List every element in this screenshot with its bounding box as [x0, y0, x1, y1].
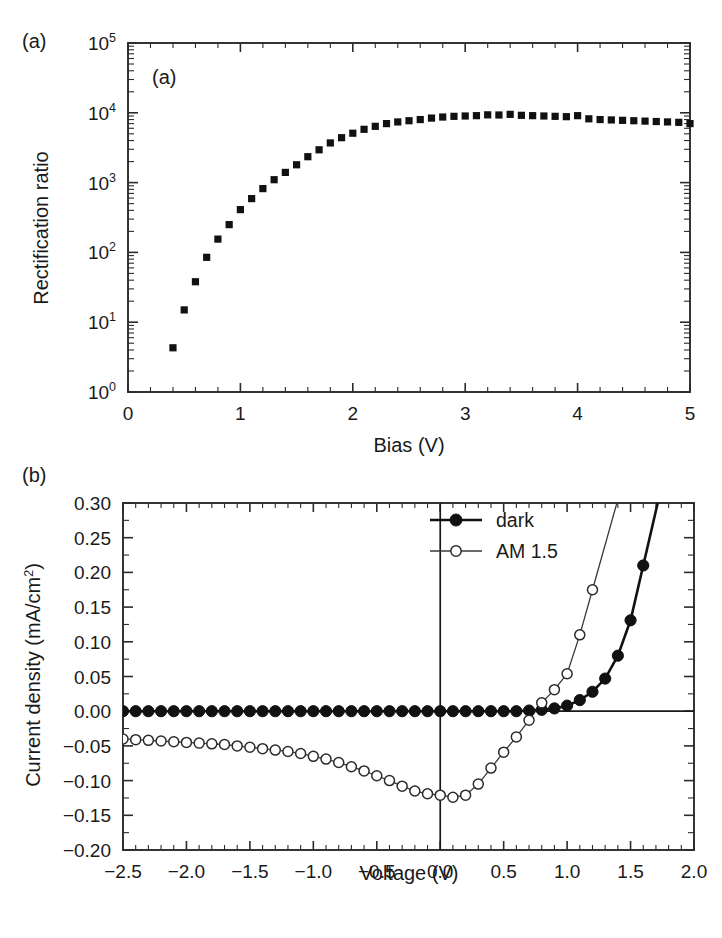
panel-a-marker: [271, 176, 278, 183]
panel-b-marker: [435, 706, 446, 717]
panel-b-x-tick-label: −1.5: [231, 861, 269, 882]
panel-a: 012345100101102103104105 (a) (a) Bias (V…: [0, 0, 722, 470]
panel-a-marker: [405, 117, 412, 124]
panel-b: −2.5−2.0−1.5−1.0−0.50.00.51.01.52.0−0.20…: [0, 460, 722, 938]
panel-b-marker: [384, 706, 395, 717]
panel-a-marker: [439, 113, 446, 120]
panel-b-x-tick-label: 1.5: [617, 861, 643, 882]
panel-b-marker: [499, 747, 509, 757]
panel-a-x-axis-title: Bias (V): [373, 434, 444, 456]
panel-b-marker: [537, 698, 547, 708]
panel-a-marker: [383, 120, 390, 127]
panel-b-marker: [358, 706, 369, 717]
panel-b-marker: [258, 744, 268, 754]
legend-marker-dark: [450, 514, 462, 526]
panel-b-marker: [295, 706, 306, 717]
panel-a-marker: [529, 112, 536, 119]
panel-a-marker: [315, 146, 322, 153]
panel-b-x-tick-label: −2.0: [168, 861, 206, 882]
panel-a-marker: [349, 130, 356, 137]
panel-b-markers-am-1-5: [118, 585, 597, 803]
panel-a-frame: [128, 43, 690, 392]
panel-b-marker: [296, 749, 306, 759]
panel-a-marker: [293, 161, 300, 168]
panel-b-marker: [220, 740, 230, 750]
panel-b-marker: [194, 738, 204, 748]
panel-b-marker: [498, 706, 509, 717]
panel-b-x-tick-label: 1.0: [554, 861, 580, 882]
panel-b-marker: [473, 779, 483, 789]
panel-a-marker: [596, 116, 603, 123]
panel-a-marker: [507, 111, 514, 118]
panel-b-x-axis-title: Voltage (V): [360, 862, 459, 884]
panel-b-marker: [359, 766, 369, 776]
panel-b-y-tick-label: 0.05: [74, 667, 111, 688]
panel-a-y-tick-label: 101: [88, 310, 116, 333]
panel-b-marker: [460, 706, 471, 717]
panel-b-marker: [131, 735, 141, 745]
panel-b-marker: [461, 790, 471, 800]
panel-b-marker: [600, 673, 611, 684]
panel-b-marker: [638, 560, 649, 571]
panel-b-marker: [587, 585, 597, 595]
panel-b-marker: [423, 789, 433, 799]
panel-b-marker: [219, 706, 230, 717]
panel-b-marker: [473, 706, 484, 717]
panel-a-marker: [462, 112, 469, 119]
panel-b-y-tick-label: 0.10: [74, 632, 111, 653]
panel-b-marker: [511, 732, 521, 742]
panel-b-y-tick-label: −0.15: [63, 805, 111, 826]
panel-a-marker: [360, 126, 367, 133]
panel-b-marker: [587, 686, 598, 697]
panel-a-marker: [473, 112, 480, 119]
panel-a-marker: [540, 112, 547, 119]
panel-a-marker: [394, 118, 401, 125]
panel-b-marker: [346, 706, 357, 717]
panel-b-marker: [523, 705, 534, 716]
panel-a-marker: [585, 115, 592, 122]
panel-a-marker: [552, 113, 559, 120]
panel-b-marker: [283, 746, 293, 756]
panel-b-marker: [245, 742, 255, 752]
panel-b-marker: [549, 703, 560, 714]
panel-a-marker: [518, 112, 525, 119]
panel-b-marker: [371, 706, 382, 717]
panel-b-plot: −2.5−2.0−1.5−1.0−0.50.00.51.01.52.0−0.20…: [0, 460, 722, 938]
panel-b-marker: [270, 706, 281, 717]
panel-b-line: [123, 447, 671, 711]
panel-b-marker: [486, 763, 496, 773]
panel-b-y-tick-label: 0.30: [74, 493, 111, 514]
panel-b-marker: [574, 694, 585, 705]
panel-a-marker: [484, 111, 491, 118]
panel-a-x-tick-label: 2: [348, 403, 359, 424]
panel-a-marker: [304, 153, 311, 160]
panel-b-marker: [232, 741, 242, 751]
legend-label-am-1-5: AM 1.5: [496, 540, 558, 562]
panel-a-marker: [417, 116, 424, 123]
panel-b-marker: [117, 706, 128, 717]
panel-a-letter: (a): [22, 30, 46, 52]
panel-b-series-dark: [123, 447, 671, 711]
panel-b-marker: [169, 737, 179, 747]
panel-a-marker: [664, 118, 671, 125]
panel-a-marker: [259, 185, 266, 192]
panel-a-x-tick-label: 3: [460, 403, 471, 424]
panel-a-y-axis-title: Rectification ratio: [30, 151, 52, 304]
panel-a-x-tick-label: 4: [572, 403, 583, 424]
panel-b-marker: [447, 706, 458, 717]
panel-b-marker: [511, 706, 522, 717]
panel-b-marker: [333, 706, 344, 717]
panel-a-x-tick-label: 0: [123, 403, 134, 424]
panel-a-marker: [686, 120, 693, 127]
panel-a-y-tick-label: 105: [88, 31, 116, 54]
panel-a-marker: [237, 206, 244, 213]
panel-a-y-tick-label: 103: [88, 171, 116, 194]
panel-b-marker: [346, 762, 356, 772]
panel-b-x-tick-label: −2.5: [104, 861, 142, 882]
panel-b-marker: [207, 739, 217, 749]
panel-b-y-axis-title: Current density (mA/cm2): [22, 563, 44, 787]
panel-b-marker: [308, 706, 319, 717]
panel-b-markers-dark: [117, 560, 648, 717]
panel-b-marker: [155, 706, 166, 717]
panel-a-marker: [630, 117, 637, 124]
